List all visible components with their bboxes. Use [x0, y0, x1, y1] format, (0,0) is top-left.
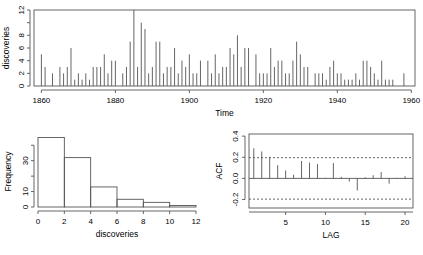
y-axis-tick-label: -0.2 — [231, 192, 240, 206]
plot-frame — [34, 10, 415, 86]
x-axis-tick-label: 10 — [165, 217, 174, 226]
x-axis-tick-label: 1880 — [106, 96, 124, 105]
x-axis-tick-label: 8 — [141, 217, 146, 226]
histogram-bar — [117, 199, 143, 207]
histogram-panel: 01030Frequency024681012discoveries — [0, 124, 212, 255]
y-axis-tick-label: 0.0 — [231, 172, 240, 184]
y-axis-title: ACF — [214, 163, 224, 180]
acf-plot: -0.20.00.20.4ACF5101520LAG — [211, 124, 423, 255]
histogram-bar — [64, 158, 90, 207]
y-axis-title: discoveries — [1, 27, 11, 70]
timeseries-panel: 0246812discoveries1860188019001920194019… — [0, 0, 423, 120]
histogram-bar — [143, 202, 169, 207]
y-axis-tick-label: 12 — [17, 5, 26, 14]
x-axis-tick-label: 1940 — [328, 96, 346, 105]
histogram-bar — [38, 138, 64, 207]
y-axis-tick-label: 4 — [17, 58, 26, 63]
timeseries-plot: 0246812discoveries1860188019001920194019… — [0, 0, 423, 120]
histogram-bar — [170, 205, 196, 207]
x-axis-tick-label: 1900 — [180, 96, 198, 105]
y-axis-tick-label: 0.4 — [231, 130, 240, 142]
x-axis-title: Time — [215, 108, 234, 118]
x-axis-tick-label: 20 — [401, 218, 410, 227]
x-axis-tick-label: 6 — [115, 217, 120, 226]
histogram-bars — [38, 138, 196, 207]
y-axis-tick-label: 0 — [21, 204, 30, 209]
acf-panel: -0.20.00.20.4ACF5101520LAG — [211, 124, 423, 255]
x-axis-tick-label: 4 — [88, 217, 93, 226]
plot-frame — [249, 134, 413, 208]
y-axis-tick-label: 8 — [17, 33, 26, 38]
x-axis-tick-label: 10 — [321, 218, 330, 227]
x-axis-tick-label: 5 — [283, 218, 288, 227]
timeseries-impulses — [41, 10, 407, 86]
y-axis-tick-label: 30 — [21, 156, 30, 165]
y-axis-tick-label: 0.2 — [231, 151, 240, 163]
y-axis-tick-label: 0 — [17, 83, 26, 88]
acf-spikes — [254, 148, 405, 190]
x-axis-tick-label: 12 — [192, 217, 201, 226]
x-axis-tick-label: 2 — [62, 217, 67, 226]
y-axis-title: Frequency — [3, 151, 13, 192]
x-axis-tick-label: 1860 — [32, 96, 50, 105]
y-axis-tick-label: 10 — [21, 187, 30, 196]
x-axis-tick-label: 15 — [361, 218, 370, 227]
x-axis-tick-label: 1920 — [254, 96, 272, 105]
x-axis-tick-label: 1960 — [402, 96, 420, 105]
x-axis-tick-label: 0 — [36, 217, 41, 226]
y-axis-tick-label: 6 — [17, 45, 26, 50]
x-axis-title: LAG — [322, 230, 339, 240]
y-axis-tick-label: 2 — [17, 71, 26, 76]
x-axis-title: discoveries — [96, 229, 139, 239]
histogram-plot: 01030Frequency024681012discoveries — [0, 124, 212, 255]
r-graphics-figure: 0246812discoveries1860188019001920194019… — [0, 0, 423, 255]
histogram-bar — [91, 187, 117, 207]
